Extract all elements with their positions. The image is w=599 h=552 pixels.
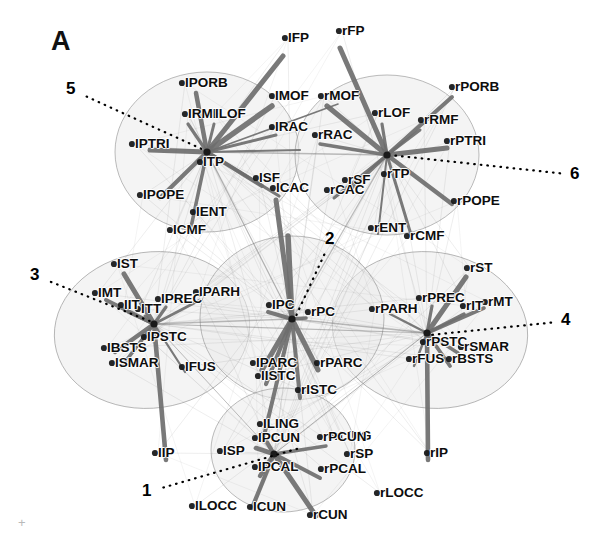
node-label-rENT[interactable]: rENT bbox=[374, 221, 406, 235]
node-label-lLOF[interactable]: lLOF bbox=[215, 107, 246, 121]
node-label-rPC[interactable]: rPC bbox=[311, 305, 335, 319]
hub-dot-lPC[interactable] bbox=[288, 315, 295, 322]
node-label-lISTC[interactable]: lISTC bbox=[261, 369, 296, 383]
node-label-lCMF[interactable]: lCMF bbox=[173, 223, 206, 237]
node-label-lBSTS[interactable]: lBSTS bbox=[107, 341, 147, 355]
hub-dot-lPSTC[interactable] bbox=[150, 320, 157, 327]
node-label-lPCUN[interactable]: lPCUN bbox=[258, 431, 300, 445]
node-label-lPCAL[interactable]: lPCAL bbox=[258, 460, 299, 474]
node-label-lSMAR[interactable]: lSMAR bbox=[115, 356, 159, 370]
node-label-rPCUN[interactable]: rPCUN bbox=[323, 430, 367, 444]
node-label-rCMF[interactable]: rCMF bbox=[410, 229, 445, 243]
node-label-rPCAL[interactable]: rPCAL bbox=[324, 462, 366, 476]
node-label-rSMAR[interactable]: rSMAR bbox=[464, 340, 509, 354]
node-label-rPARC[interactable]: rPARC bbox=[320, 356, 363, 370]
node-label-lSP[interactable]: lSP bbox=[223, 444, 245, 458]
node-label-rPSTC[interactable]: rPSTC bbox=[426, 335, 467, 349]
node-label-lPC[interactable]: lPC bbox=[272, 298, 295, 312]
node-label-lFUS[interactable]: lFUS bbox=[185, 360, 216, 374]
node-label-rLOCC[interactable]: rLOCC bbox=[380, 486, 424, 500]
node-label-lST[interactable]: lST bbox=[117, 257, 138, 271]
cluster-number-2: 2 bbox=[325, 229, 334, 249]
node-label-rRAC[interactable]: rRAC bbox=[318, 128, 353, 142]
node-label-lCUN[interactable]: lCUN bbox=[253, 500, 286, 514]
node-label-rST[interactable]: rST bbox=[470, 261, 493, 275]
node-label-lENT[interactable]: lENT bbox=[196, 205, 227, 219]
node-label-rCAC[interactable]: rCAC bbox=[330, 183, 365, 197]
node-label-lIP[interactable]: lIP bbox=[158, 446, 175, 460]
node-label-lMT[interactable]: lMT bbox=[98, 286, 121, 300]
node-label-lLING[interactable]: lLING bbox=[263, 417, 299, 431]
cluster-number-1: 1 bbox=[142, 481, 151, 501]
cluster-number-6: 6 bbox=[570, 164, 579, 184]
node-label-rIP[interactable]: rIP bbox=[430, 446, 448, 460]
node-label-rPREC[interactable]: rPREC bbox=[422, 291, 465, 305]
node-label-lMOF[interactable]: lMOF bbox=[275, 89, 309, 103]
node-label-lIT[interactable]: lIT bbox=[124, 298, 140, 312]
node-label-rIT[interactable]: rIT bbox=[466, 299, 483, 313]
node-label-lPSTC[interactable]: lPSTC bbox=[147, 330, 187, 344]
cluster-number-3: 3 bbox=[30, 265, 39, 285]
node-label-lRAC[interactable]: lRAC bbox=[275, 120, 308, 134]
node-label-lPORB[interactable]: lPORB bbox=[185, 76, 228, 90]
node-label-rMT[interactable]: rMT bbox=[488, 295, 513, 309]
node-label-rFUS[interactable]: rFUS bbox=[412, 352, 444, 366]
node-label-rRMF[interactable]: rRMF bbox=[424, 113, 459, 127]
node-label-lFP[interactable]: lFP bbox=[288, 31, 309, 45]
node-label-lPTRI[interactable]: lPTRI bbox=[135, 137, 170, 151]
node-label-rSP[interactable]: rSP bbox=[350, 447, 373, 461]
node-label-rPORB[interactable]: rPORB bbox=[455, 80, 499, 94]
node-label-lTP[interactable]: lTP bbox=[203, 155, 224, 169]
cluster-number-5: 5 bbox=[66, 79, 75, 99]
node-label-lPARH[interactable]: lPARH bbox=[199, 285, 240, 299]
node-label-rCUN[interactable]: rCUN bbox=[313, 508, 348, 522]
connectome-network-svg bbox=[0, 0, 599, 552]
hub-dot-rTP[interactable] bbox=[383, 151, 390, 158]
node-label-lTT[interactable]: lTT bbox=[141, 302, 161, 316]
node-label-rPARH[interactable]: rPARH bbox=[375, 302, 418, 316]
node-label-rPOPE[interactable]: rPOPE bbox=[457, 194, 500, 208]
node-label-rTP[interactable]: rTP bbox=[387, 167, 410, 181]
crosshair-marker: + bbox=[18, 516, 26, 529]
node-label-lLOCC[interactable]: lLOCC bbox=[195, 499, 237, 513]
node-label-lPREC[interactable]: lPREC bbox=[161, 292, 202, 306]
node-label-rFP[interactable]: rFP bbox=[342, 24, 365, 38]
node-label-rPTRI[interactable]: rPTRI bbox=[450, 134, 486, 148]
cluster-number-4: 4 bbox=[561, 310, 570, 330]
page-title: A bbox=[51, 26, 71, 57]
node-label-rLOF[interactable]: rLOF bbox=[378, 106, 410, 120]
figure-panel: A + lFPrFPlPORBrPORBlRMFlLOFlMOFrMOFrLOF… bbox=[0, 0, 599, 552]
node-label-lPOPE[interactable]: lPOPE bbox=[143, 188, 184, 202]
node-label-lCAC[interactable]: lCAC bbox=[276, 181, 309, 195]
node-label-rISTC[interactable]: rISTC bbox=[301, 383, 337, 397]
node-label-rBSTS[interactable]: rBSTS bbox=[452, 352, 493, 366]
node-label-rMOF[interactable]: rMOF bbox=[324, 89, 359, 103]
